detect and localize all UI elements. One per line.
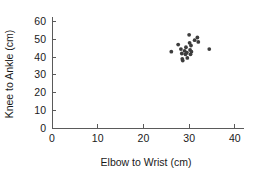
data-points [169,33,211,63]
data-point [180,52,184,56]
y-axis-tick-label: 40 [34,51,46,63]
x-axis-tick-label: 30 [183,132,195,144]
y-axis-tick-label: 30 [34,68,46,80]
data-point [207,47,211,51]
data-point [187,33,191,37]
data-point [185,56,189,60]
x-axis-tick-label: 20 [138,132,150,144]
data-point [185,51,189,55]
y-axis-tick-label: 0 [40,122,46,134]
data-point [176,43,180,47]
y-axis-tick-label: 60 [34,15,46,27]
y-axis-tick-label: 10 [34,104,46,116]
data-point [189,44,193,48]
chart-canvas: 0102030405060010203040 Elbow to Wrist (c… [0,0,258,174]
axis-ticks [52,22,235,128]
data-point [184,45,188,49]
x-axis-tick-label: 0 [49,132,55,144]
x-axis-tick-label: 10 [92,132,104,144]
data-point [195,36,199,40]
data-point [181,59,185,63]
axes [52,17,244,128]
data-point [190,50,194,54]
y-axis-tick-label: 50 [34,33,46,45]
data-point [193,38,197,42]
data-point [179,47,183,51]
axis-tick-labels: 0102030405060010203040 [34,15,241,144]
y-axis-title: Knee to Ankle (cm) [3,30,15,119]
scatter-plot-figure: 0102030405060010203040 Elbow to Wrist (c… [0,0,258,174]
data-point [169,50,173,54]
x-axis-tick-label: 40 [229,132,241,144]
x-axis-title: Elbow to Wrist (cm) [101,156,192,168]
y-axis-tick-label: 20 [34,86,46,98]
data-point [196,40,200,44]
